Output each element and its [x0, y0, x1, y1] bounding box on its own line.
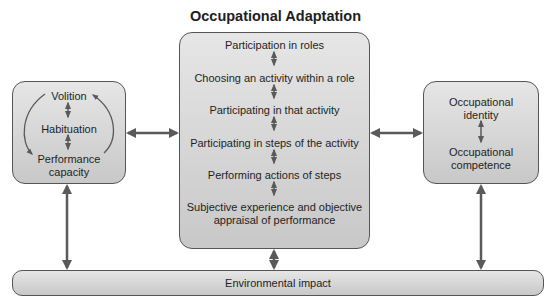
volition-label: Volition: [13, 90, 125, 103]
right-box: Occupational identity Occupational compe…: [423, 81, 539, 184]
occupational-competence-label-line1: Occupational: [424, 146, 538, 159]
choosing-activity-label: Choosing an activity within a role: [180, 72, 369, 85]
occupational-identity-label-line1: Occupational: [424, 96, 538, 109]
performing-actions-label: Performing actions of steps: [180, 169, 369, 182]
performance-capacity-label-line1: Performance: [13, 153, 125, 166]
diagram-title: Occupational Adaptation: [0, 8, 551, 24]
environmental-impact-bar: Environmental impact: [12, 270, 544, 296]
subjective-experience-label-line1: Subjective experience and objective: [180, 201, 369, 214]
performance-capacity-label-line2: capacity: [13, 166, 125, 179]
occupational-identity-label-line2: identity: [424, 109, 538, 122]
center-box: Participation in roles Choosing an activ…: [179, 32, 370, 249]
habituation-label: Habituation: [13, 123, 125, 136]
participation-in-roles-label: Participation in roles: [180, 39, 369, 52]
occupational-competence-label-line2: competence: [424, 159, 538, 172]
subjective-experience-label-line2: appraisal of performance: [180, 214, 369, 227]
left-box: Volition Habituation Performance capacit…: [12, 81, 126, 184]
participating-steps-label: Participating in steps of the activity: [180, 137, 369, 150]
participating-activity-label: Participating in that activity: [180, 104, 369, 117]
environmental-impact-label: Environmental impact: [13, 277, 543, 290]
